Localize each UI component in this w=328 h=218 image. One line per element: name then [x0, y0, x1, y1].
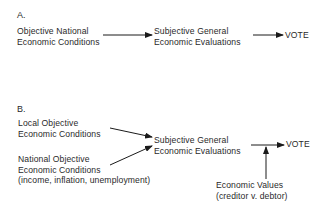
arrow-b-national-to-subjective [110, 146, 152, 165]
arrow-b-local-to-subjective [110, 128, 152, 137]
arrows-layer [0, 0, 328, 218]
